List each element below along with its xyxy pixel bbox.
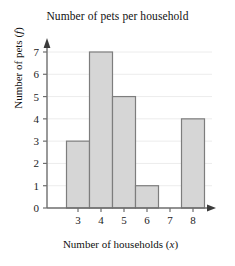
y-tick-label-6: 6 (34, 68, 40, 80)
y-tick-label-7: 7 (34, 46, 40, 58)
y-tick-label-1: 1 (34, 180, 40, 192)
bar-8 (182, 119, 205, 208)
y-tick-label-0: 0 (34, 202, 40, 214)
x-tick-label-4: 4 (98, 214, 104, 226)
bar-6 (136, 186, 159, 208)
x-axis-arrowhead (207, 205, 216, 212)
y-axis-ticks: 01234567 (34, 46, 48, 214)
bar-series (67, 52, 205, 208)
x-axis-ticks: 345678 (75, 208, 196, 226)
y-tick-label-2: 2 (34, 157, 40, 169)
x-tick-label-6: 6 (144, 214, 150, 226)
x-tick-label-8: 8 (190, 214, 196, 226)
x-tick-label-5: 5 (121, 214, 127, 226)
bar-3 (67, 141, 90, 208)
y-tick-label-3: 3 (34, 135, 40, 147)
x-tick-label-7: 7 (167, 214, 173, 226)
chart-container: Number of pets per household Number of p… (0, 0, 235, 266)
bar-5 (113, 97, 136, 208)
y-axis-arrowhead (44, 38, 51, 48)
bar-4 (90, 52, 113, 208)
chart-plot-area: 01234567 345678 (0, 0, 235, 266)
y-tick-label-5: 5 (34, 91, 40, 103)
x-tick-label-3: 3 (75, 214, 81, 226)
y-tick-label-4: 4 (34, 113, 40, 125)
